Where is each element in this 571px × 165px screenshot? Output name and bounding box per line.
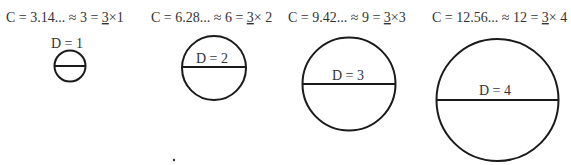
diameter-label-d1: D = 1 <box>51 36 83 51</box>
diameter-label-d4: D = 4 <box>479 83 511 98</box>
formula-d1: C = 3.14... ≈ 3 = 3×1 <box>6 10 124 25</box>
multiplier-d4: 3 <box>542 10 549 25</box>
multiplier-d1: 3 <box>102 10 109 25</box>
formula-d3: C = 9.42... ≈ 9 = 3×3 <box>288 10 406 25</box>
diameter-label-d3: D = 3 <box>332 68 364 83</box>
circle-group-d4: C = 12.56... ≈ 12 = 3× 4 D = 4 <box>432 10 567 161</box>
circle-group-d2: C = 6.28... ≈ 6 = 3× 2 D = 2 <box>151 10 272 100</box>
formula-d4: C = 12.56... ≈ 12 = 3× 4 <box>432 10 567 25</box>
formula-d2: C = 6.28... ≈ 6 = 3× 2 <box>151 10 272 25</box>
stray-dot <box>173 159 175 161</box>
multiplier-d2: 3 <box>247 10 254 25</box>
circle-group-d3: C = 9.42... ≈ 9 = 3×3 D = 3 <box>288 10 406 131</box>
circumference-diagram: C = 3.14... ≈ 3 = 3×1 D = 1 C = 6.28... … <box>0 0 571 165</box>
multiplier-d3: 3 <box>384 10 391 25</box>
diameter-label-d2: D = 2 <box>196 51 228 66</box>
circle-group-d1: C = 3.14... ≈ 3 = 3×1 D = 1 <box>6 10 124 82</box>
